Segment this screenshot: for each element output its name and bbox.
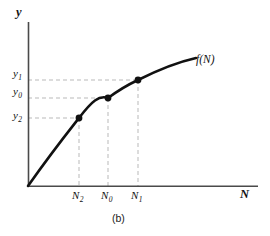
x-tick-label-N2: N2 [72,190,83,201]
y-tick-sub-y1: 1 [18,73,22,82]
x-tick-base-N2: N [72,189,79,201]
production-function-curve [28,58,196,186]
x-tick-base-N0: N [101,189,108,201]
y-tick-label-y1: y1 [13,68,22,79]
x-tick-base-N1: N [131,189,138,201]
figure-caption: (b) [112,212,125,224]
x-tick-sub-N2: 2 [80,195,84,204]
y-tick-sub-y0: 0 [18,91,22,100]
x-tick-sub-N1: 1 [139,195,143,204]
data-point-N1 [135,77,142,84]
data-point-N0 [105,95,112,102]
y-tick-sub-y2: 2 [18,115,22,124]
production-function-figure: y N y1 y0 y2 N2 N0 N1 f(N) (b) [0,0,270,236]
data-point-N2 [76,115,83,122]
x-tick-sub-N0: 0 [109,195,113,204]
curve-label: f(N) [196,54,215,66]
x-axis-label: N [240,188,249,201]
y-tick-label-y0: y0 [13,86,22,97]
y-axis-label: y [16,6,22,19]
x-tick-label-N0: N0 [101,190,112,201]
x-tick-label-N1: N1 [131,190,142,201]
y-tick-label-y2: y2 [13,110,22,121]
